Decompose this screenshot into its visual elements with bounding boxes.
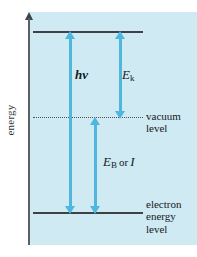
- arrow-head-down-icon: [115, 111, 125, 119]
- eb-label-subscript: B: [111, 160, 117, 170]
- hv-label: hν: [75, 68, 88, 83]
- electron-level-label-line1: electron: [146, 198, 181, 210]
- ek-label-base: E: [122, 67, 130, 82]
- vacuum-level-label-line2: level: [146, 122, 181, 134]
- arrow-head-down-icon: [65, 206, 75, 214]
- ek-label-subscript: k: [130, 73, 135, 83]
- energy-axis-label: energy: [4, 90, 16, 150]
- electron-level-label-line3: level: [146, 223, 181, 235]
- hv-arrow: [65, 31, 76, 214]
- eb-arrow: [90, 117, 101, 214]
- ek-label: Ek: [122, 68, 134, 83]
- arrow-shaft: [94, 123, 97, 208]
- electron-level-line: [33, 212, 143, 214]
- energy-level-diagram: energy hν Ek EBorI vacuum level electron: [0, 0, 197, 257]
- electron-level-label-line2: energy: [146, 210, 181, 222]
- energy-axis-line: [28, 18, 30, 245]
- eb-label-conjunction: or: [117, 156, 130, 168]
- arrow-shaft: [69, 37, 72, 208]
- eb-label: EBorI: [103, 155, 134, 170]
- electron-level-label: electron energy level: [146, 198, 181, 235]
- vacuum-level-line: [33, 117, 143, 118]
- vacuum-level-label-line1: vacuum: [146, 110, 181, 122]
- vacuum-level-label: vacuum level: [146, 110, 181, 135]
- eb-label-base: E: [103, 154, 111, 169]
- eb-label-alt: I: [130, 154, 134, 169]
- upper-level-line: [33, 31, 143, 33]
- arrow-head-down-icon: [90, 206, 100, 214]
